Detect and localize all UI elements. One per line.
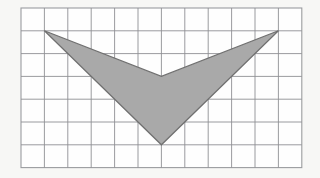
grid-figure-svg (0, 0, 320, 178)
figure-canvas (0, 0, 320, 178)
